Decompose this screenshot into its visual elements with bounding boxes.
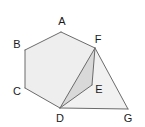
geometry-figure: A B C D E F G — [0, 0, 145, 127]
vertex-label-c: C — [13, 85, 21, 97]
vertex-label-e: E — [95, 83, 102, 95]
geometry-canvas: A B C D E F G — [0, 0, 145, 127]
vertex-label-b: B — [13, 38, 20, 50]
vertex-label-g: G — [124, 112, 133, 124]
vertex-label-f: F — [95, 33, 102, 45]
vertex-label-d: D — [56, 112, 64, 124]
vertex-label-a: A — [58, 15, 66, 27]
